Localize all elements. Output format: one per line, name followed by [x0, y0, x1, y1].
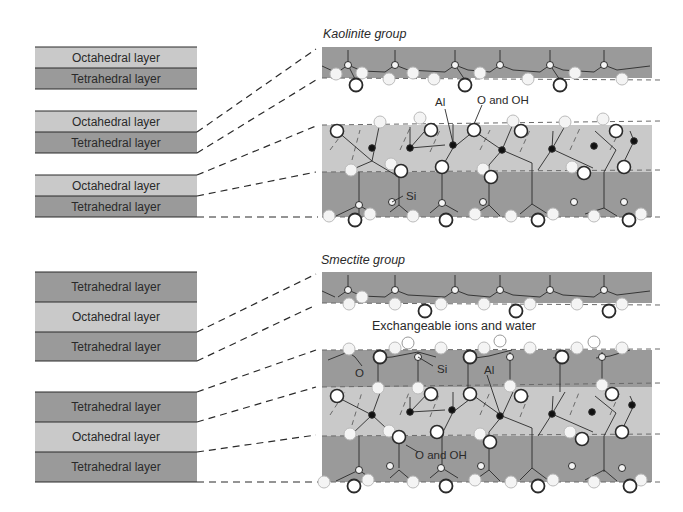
layer-label: Tetrahedral layer	[71, 460, 160, 474]
layer-label: Tetrahedral layer	[71, 136, 160, 150]
kaolinite-stack-3: Octahedral layer Tetrahedral layer	[35, 175, 197, 217]
layer-label: Tetrahedral layer	[71, 400, 160, 414]
si-label: Si	[437, 363, 447, 375]
kaolinite-atomic-structure: Al O and OH Si	[322, 47, 660, 227]
al-label: Al	[435, 96, 445, 108]
interlayer-label: Exchangeable ions and water	[372, 319, 536, 333]
layer-label: Octahedral layer	[72, 310, 160, 324]
o-oh-label: O and OH	[415, 449, 467, 461]
smectite-schematic-stacks: Tetrahedral layer Octahedral layer Tetra…	[35, 272, 197, 482]
smectite-stack-1: Tetrahedral layer Octahedral layer Tetra…	[35, 272, 197, 361]
kaolinite-schematic-stacks: Octahedral layer Tetrahedral layer Octah…	[35, 47, 197, 217]
kaolinite-group-title: Kaolinite group	[323, 27, 406, 41]
o-label: O	[355, 367, 364, 379]
layer-label: Octahedral layer	[72, 179, 160, 193]
kaolinite-connector-lines	[197, 49, 318, 217]
o-oh-label: O and OH	[477, 94, 529, 106]
al-label: Al	[484, 364, 494, 376]
layer-label: Octahedral layer	[72, 115, 160, 129]
layer-label: Octahedral layer	[72, 51, 160, 65]
smectite-stack-2: Tetrahedral layer Octahedral layer Tetra…	[35, 392, 197, 482]
layer-label: Tetrahedral layer	[71, 340, 160, 354]
layer-label: Tetrahedral layer	[71, 72, 160, 86]
layer-label: Tetrahedral layer	[71, 200, 160, 214]
smectite-atomic-structure: Exchangeable ions and water	[318, 272, 660, 493]
smectite-connector-lines	[197, 274, 318, 482]
smectite-group-title: Smectite group	[321, 253, 405, 267]
kaolinite-stack-1: Octahedral layer Tetrahedral layer	[35, 47, 197, 89]
kaolinite-stack-2: Octahedral layer Tetrahedral layer	[35, 111, 197, 153]
layer-label: Octahedral layer	[72, 430, 160, 444]
layer-label: Tetrahedral layer	[71, 280, 160, 294]
si-label: Si	[406, 190, 416, 202]
clay-mineral-structure-diagram: Octahedral layer Tetrahedral layer Octah…	[0, 0, 683, 512]
